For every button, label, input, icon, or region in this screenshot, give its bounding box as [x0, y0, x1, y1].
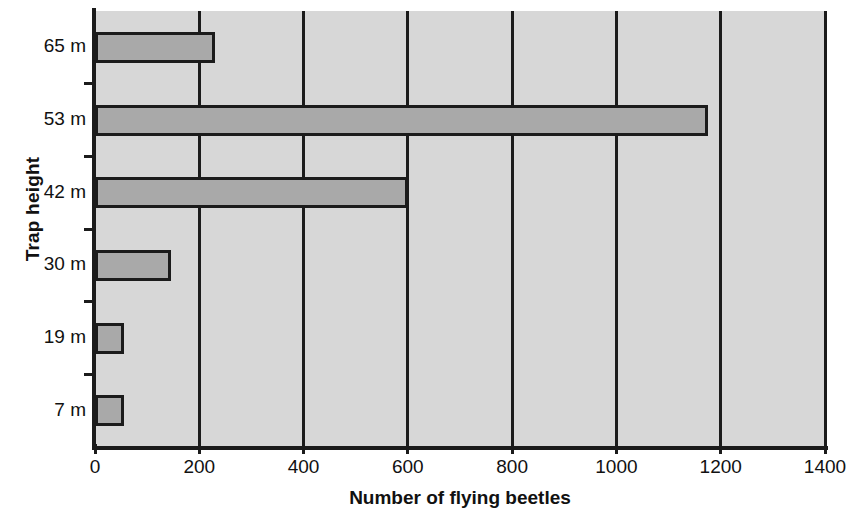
x-axis-tick	[511, 444, 514, 454]
gridline	[406, 11, 409, 447]
gridline	[824, 11, 827, 447]
y-axis-tick	[84, 82, 93, 85]
y-axis-tick-labels: 7 m19 m30 m42 m53 m65 m	[0, 0, 86, 531]
gridline	[302, 11, 305, 447]
x-axis-title: Number of flying beetles	[95, 487, 825, 509]
bar	[95, 32, 215, 63]
x-axis-tick-label: 1200	[676, 456, 766, 478]
bar-chart-figure: Trap height 7 m19 m30 m42 m53 m65 m Numb…	[0, 0, 853, 531]
x-axis-tick-label: 0	[50, 456, 140, 478]
bar	[95, 395, 124, 426]
x-axis-tick-label: 600	[363, 456, 453, 478]
gridline	[719, 11, 722, 447]
y-axis-tick-label: 7 m	[14, 399, 86, 421]
x-axis-line	[92, 446, 828, 450]
x-axis-tick	[719, 444, 722, 454]
y-axis-tick-label: 65 m	[14, 35, 86, 57]
bar	[95, 323, 124, 354]
x-axis-tick-label: 1000	[571, 456, 661, 478]
y-axis-tick-label: 30 m	[14, 253, 86, 275]
y-axis-tick-label: 53 m	[14, 108, 86, 130]
plot-area	[95, 11, 825, 447]
x-axis-tick	[302, 444, 305, 454]
x-axis-tick	[94, 444, 97, 454]
y-axis-tick	[84, 228, 93, 231]
bar	[95, 177, 408, 208]
x-axis-tick	[615, 444, 618, 454]
x-axis-tick	[824, 444, 827, 454]
y-axis-tick	[84, 300, 93, 303]
y-axis-tick-label: 19 m	[14, 326, 86, 348]
x-axis-tick-label: 400	[259, 456, 349, 478]
gridline	[198, 11, 201, 447]
y-axis-tick-label: 42 m	[14, 181, 86, 203]
gridline	[615, 11, 618, 447]
x-axis-tick	[198, 444, 201, 454]
x-axis-tick	[406, 444, 409, 454]
x-axis-tick-label: 1400	[780, 456, 853, 478]
bar	[95, 105, 708, 136]
y-axis-tick	[84, 373, 93, 376]
x-axis-tick-label: 200	[154, 456, 244, 478]
x-axis-tick-label: 800	[467, 456, 557, 478]
bar	[95, 250, 171, 281]
gridline	[511, 11, 514, 447]
y-axis-tick	[84, 155, 93, 158]
